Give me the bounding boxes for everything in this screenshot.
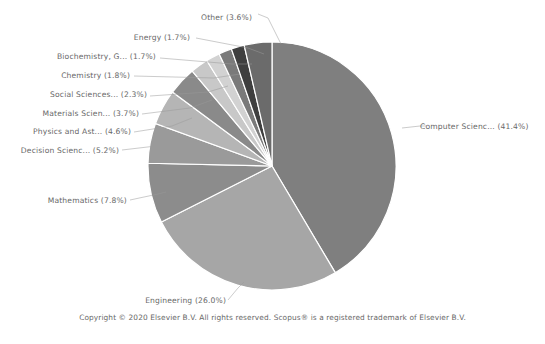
pie-label-materials-science: Materials Scien... (3.7%)	[0, 109, 139, 118]
leader-line-other	[258, 14, 281, 44]
pie-label-materials-science-text: Materials Scien... (3.7%)	[43, 109, 139, 118]
pie-label-other-text: Other (3.6%)	[201, 13, 252, 22]
pie-label-engineering-text: Engineering (26.0%)	[145, 296, 226, 305]
pie-label-computer-science: Computer Scienc... (41.4%)	[420, 122, 545, 131]
pie-label-energy: Energy (1.7%)	[0, 33, 190, 42]
pie-label-decision-sciences-text: Decision Scienc... (5.2%)	[21, 146, 119, 155]
pie-label-other: Other (3.6%)	[0, 13, 252, 22]
pie-label-social-sciences: Social Sciences... (2.3%)	[0, 90, 147, 99]
pie-label-biochemistry-text: Biochemistry, G... (1.7%)	[57, 52, 156, 61]
pie-label-physics-astronomy-text: Physics and Ast... (4.6%)	[33, 127, 131, 136]
pie-label-engineering: Engineering (26.0%)	[0, 296, 226, 305]
pie-label-chemistry-text: Chemistry (1.8%)	[61, 71, 130, 80]
pie-chart-figure: Other (3.6%) Energy (1.7%) Biochemistry,…	[0, 0, 545, 344]
pie-label-energy-text: Energy (1.7%)	[134, 33, 190, 42]
pie-label-physics-astronomy: Physics and Ast... (4.6%)	[0, 127, 131, 136]
pie-label-chemistry: Chemistry (1.8%)	[0, 71, 130, 80]
pie-label-mathematics-text: Mathematics (7.8%)	[48, 196, 127, 205]
pie-label-mathematics: Mathematics (7.8%)	[0, 196, 127, 205]
pie-label-decision-sciences: Decision Scienc... (5.2%)	[0, 146, 119, 155]
pie-slice-group	[148, 42, 396, 290]
pie-label-biochemistry: Biochemistry, G... (1.7%)	[0, 52, 156, 61]
pie-label-computer-science-text: Computer Scienc... (41.4%)	[420, 122, 529, 131]
copyright-notice: Copyright © 2020 Elsevier B.V. All right…	[0, 313, 545, 322]
pie-label-social-sciences-text: Social Sciences... (2.3%)	[50, 90, 147, 99]
